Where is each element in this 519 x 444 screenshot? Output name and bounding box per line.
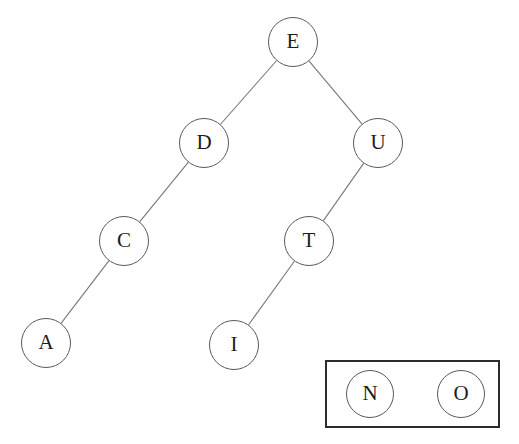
tree-node-label: E [287, 31, 300, 52]
grouped-node-label: N [362, 383, 377, 404]
grouped-node-n[interactable]: N [346, 370, 394, 418]
tree-node-label: C [117, 230, 131, 251]
tree-edge [61, 261, 109, 323]
tree-edge [323, 163, 363, 220]
grouped-node-label: O [453, 383, 468, 404]
tree-node-d[interactable]: D [179, 118, 229, 168]
grouped-node-o[interactable]: O [437, 370, 485, 418]
tree-edge [249, 261, 295, 324]
tree-node-label: I [231, 334, 238, 355]
tree-node-u[interactable]: U [353, 118, 403, 168]
tree-node-i[interactable]: I [209, 320, 259, 370]
tree-node-e[interactable]: E [268, 17, 318, 67]
tree-edge [140, 162, 188, 221]
tree-node-t[interactable]: T [284, 216, 334, 266]
tree-edge [221, 61, 277, 124]
tree-node-label: A [38, 332, 53, 353]
tree-edge [309, 61, 362, 124]
tree-node-label: D [196, 132, 211, 153]
tree-node-c[interactable]: C [99, 216, 149, 266]
tree-node-a[interactable]: A [21, 318, 71, 368]
tree-node-label: T [303, 230, 316, 251]
tree-node-label: U [370, 132, 385, 153]
tree-diagram-canvas: E D U C T A I N O [0, 0, 519, 444]
